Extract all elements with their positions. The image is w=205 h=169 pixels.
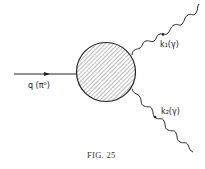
photon-k1-arrow-icon	[162, 33, 165, 36]
arrow-icon	[44, 72, 50, 76]
incoming-label: q (π⁰)	[28, 81, 50, 90]
outgoing-label-k2: k₂(γ)	[161, 107, 180, 116]
incoming-line	[14, 72, 77, 76]
interaction-blob	[70, 35, 145, 110]
figure-caption: FIG. 25	[87, 150, 116, 160]
outgoing-label-k1: k₁(γ)	[160, 40, 179, 49]
photon-k2-arrow-icon	[154, 116, 157, 119]
photon-line-k2	[132, 89, 193, 152]
feynman-diagram: q (π⁰) k₁(γ) k₂(γ) FIG. 25	[0, 0, 205, 169]
